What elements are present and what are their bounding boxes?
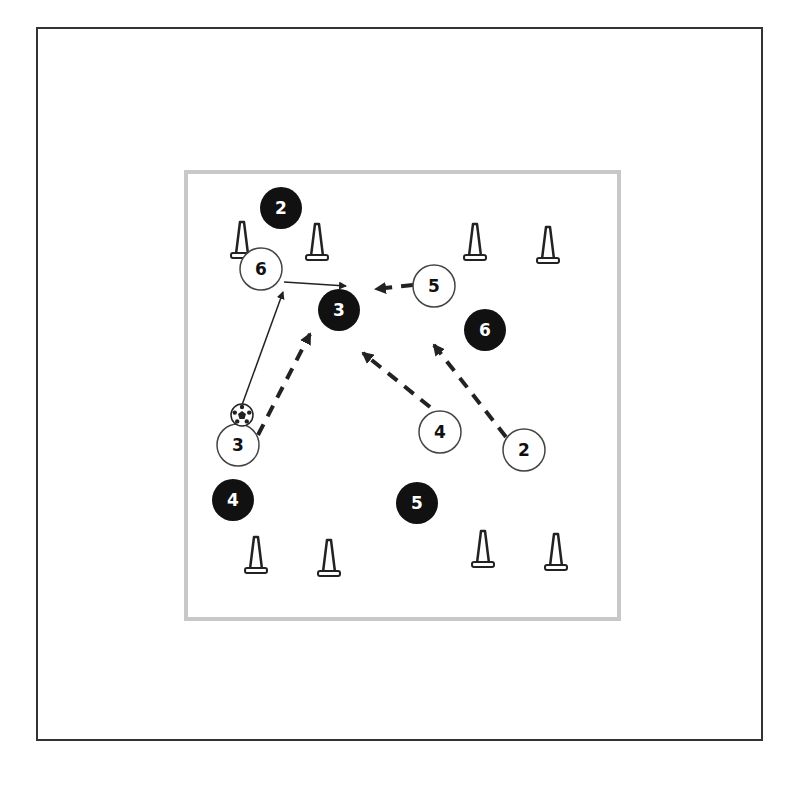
dark-player-4: 4: [212, 479, 254, 521]
svg-text:2: 2: [518, 440, 530, 460]
svg-text:4: 4: [227, 490, 239, 510]
run-4-line: [363, 353, 430, 407]
cone-icon: [464, 224, 486, 260]
light-team: 65432: [217, 248, 545, 471]
svg-text:5: 5: [411, 493, 423, 513]
cone-icon: [306, 224, 328, 260]
dark-team: 23645: [212, 187, 506, 524]
soccer-ball-icon: [231, 404, 253, 426]
dark-player-5: 5: [396, 482, 438, 524]
light-player-6: 6: [240, 248, 282, 290]
svg-text:5: 5: [428, 276, 440, 296]
light-player-5: 5: [413, 265, 455, 307]
cone-icon: [245, 537, 267, 573]
drill-diagram: 65432 23645: [0, 0, 798, 785]
movement-lines: [242, 282, 506, 437]
dark-player-3: 3: [318, 289, 360, 331]
cone-icon: [545, 534, 567, 570]
light-player-4: 4: [419, 411, 461, 453]
run-3-line: [258, 334, 310, 435]
pass-3-to-6-line: [242, 292, 283, 405]
svg-text:2: 2: [275, 198, 287, 218]
svg-text:3: 3: [232, 435, 244, 455]
cone-icon: [318, 540, 340, 576]
run-5-line: [376, 285, 413, 289]
svg-text:6: 6: [479, 320, 491, 340]
light-player-2: 2: [503, 429, 545, 471]
dark-player-2: 2: [260, 187, 302, 229]
outer-frame: [37, 28, 762, 740]
pass-6-to-3-line: [284, 282, 346, 286]
light-player-3: 3: [217, 424, 259, 466]
svg-text:4: 4: [434, 422, 446, 442]
dark-player-6: 6: [464, 309, 506, 351]
svg-text:6: 6: [255, 259, 267, 279]
cone-icon: [472, 531, 494, 567]
svg-text:3: 3: [333, 300, 345, 320]
cone-icon: [537, 227, 559, 263]
